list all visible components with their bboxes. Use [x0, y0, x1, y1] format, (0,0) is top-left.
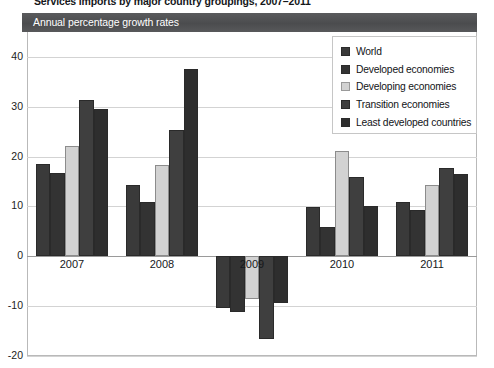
bar: [169, 130, 183, 256]
figure-caption: Services imports by major country groupi…: [34, 0, 454, 8]
bar: [65, 146, 79, 257]
y-tick-label: 30: [0, 100, 23, 112]
bar: [364, 206, 378, 256]
bar: [155, 165, 169, 257]
bar: [439, 168, 453, 256]
bar: [335, 151, 349, 256]
y-tick-label: 0: [0, 249, 23, 261]
y-tick-label: 10: [0, 199, 23, 211]
chart-figure: Services imports by major country groupi…: [0, 0, 494, 368]
x-tick-label: 2010: [312, 258, 372, 270]
bar: [349, 177, 363, 257]
legend-label: Transition economies: [356, 99, 449, 110]
bar: [410, 210, 424, 256]
bar: [454, 174, 468, 256]
legend-label: World: [356, 46, 382, 57]
bar: [396, 202, 410, 256]
legend-item: World: [341, 43, 470, 61]
legend-item: Developed economies: [341, 61, 470, 79]
legend-swatch-icon: [341, 82, 350, 91]
legend-label: Developed economies: [356, 64, 454, 75]
legend-label: Developing economies: [356, 81, 456, 92]
x-tick-label: 2009: [222, 258, 282, 270]
x-tick-label: 2011: [402, 258, 462, 270]
panel-header-title: Annual percentage growth rates: [33, 16, 179, 28]
bar: [36, 164, 50, 257]
legend-item: Developing economies: [341, 78, 470, 96]
legend-item: Least developed countries: [341, 113, 470, 131]
legend-swatch-icon: [341, 118, 350, 127]
legend-swatch-icon: [341, 100, 350, 109]
gridline--20: [27, 356, 477, 357]
bar: [184, 69, 198, 256]
y-tick-label: 40: [0, 50, 23, 62]
bar: [425, 185, 439, 256]
x-tick-label: 2007: [42, 258, 102, 270]
legend-swatch-icon: [341, 47, 350, 56]
legend-swatch-icon: [341, 65, 350, 74]
bar: [126, 185, 140, 257]
y-tick-label: -20: [0, 349, 23, 361]
legend-item: Transition economies: [341, 96, 470, 114]
x-tick-label: 2008: [132, 258, 192, 270]
y-tick-label: 20: [0, 150, 23, 162]
panel-header: Annual percentage growth rates: [22, 13, 477, 32]
bar: [79, 100, 93, 257]
bar: [50, 173, 64, 257]
bar: [320, 227, 334, 256]
chart-legend: WorldDeveloped economiesDeveloping econo…: [332, 36, 477, 134]
bar: [306, 207, 320, 256]
bar: [140, 202, 154, 256]
bar: [94, 109, 108, 256]
legend-label: Least developed countries: [356, 117, 471, 128]
y-tick-label: -10: [0, 299, 23, 311]
